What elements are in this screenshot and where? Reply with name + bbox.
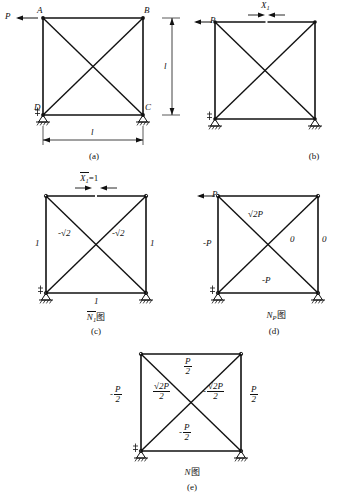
support-hatch-c xyxy=(309,126,321,129)
member-value-diagonal-left: √2P xyxy=(248,210,263,219)
member-value-diagonal-right: -√2 xyxy=(112,229,124,238)
support-pin-c xyxy=(142,293,151,300)
member-value-diagonal-left: -√2 xyxy=(58,229,70,238)
sign-bottom: - xyxy=(179,428,182,437)
panel-caption-a: (a) xyxy=(82,152,106,161)
support-pin-d xyxy=(42,293,51,300)
support-hatch-c xyxy=(140,300,152,303)
joint-label-a: A xyxy=(37,6,43,15)
dim-horizontal-arrow-left xyxy=(43,138,50,143)
support-hatch-d xyxy=(37,122,49,125)
member-value-diagonal-right: - √2P 2 xyxy=(203,382,224,401)
support-pin-c xyxy=(237,451,246,458)
load-label-p: P xyxy=(212,190,218,199)
support-hatch-d xyxy=(40,300,52,303)
load-label-p: P xyxy=(210,16,216,25)
panel-caption-b: (b) xyxy=(302,152,326,161)
panel-title-d: NP图 xyxy=(250,311,302,321)
member-value-right: 0 xyxy=(322,235,327,244)
joint-a xyxy=(41,16,45,20)
panel-title-c: N1图 xyxy=(70,311,122,323)
support-hatch-c xyxy=(312,300,324,303)
panel-b: P X1 (b) xyxy=(190,0,362,170)
panel-caption-e: (e) xyxy=(180,483,204,492)
support-pin-d xyxy=(137,451,146,458)
panel-c: X1=1 1 1 1 -√2 -√2 N1图 (c) xyxy=(0,170,190,345)
member-value-right: P 2 xyxy=(250,385,258,404)
sign-diagonal-right: - xyxy=(203,387,206,396)
panel-title-e: N图 xyxy=(174,468,210,477)
panel-b-graphic xyxy=(190,0,362,170)
support-vertical-mark-d xyxy=(207,112,212,121)
panel-a-graphic xyxy=(0,0,190,170)
dim-vertical-arrow-bottom xyxy=(170,108,175,115)
sign-left: - xyxy=(110,390,113,399)
support-hatch-d xyxy=(135,458,147,461)
load-arrow-head xyxy=(194,19,201,24)
member-value-bottom: -P xyxy=(262,276,271,285)
cut-arrow-left-head xyxy=(258,13,265,18)
support-hatch-c xyxy=(137,122,149,125)
joint-label-c: C xyxy=(145,103,151,112)
joint-label-d: D xyxy=(34,103,41,112)
support-vertical-mark-d xyxy=(38,286,43,295)
panel-caption-c: (c) xyxy=(84,327,108,336)
member-value-diagonal-left: √2P 2 xyxy=(153,382,170,401)
support-hatch-d xyxy=(212,300,224,303)
cut-arrow-right-head xyxy=(100,186,107,191)
cut-arrow-left-head xyxy=(85,186,92,191)
member-value-diagonal-right: 0 xyxy=(290,235,295,244)
member-value-left: 1 xyxy=(35,239,40,248)
member-value-bottom: 1 xyxy=(94,297,99,306)
load-arrow-head xyxy=(16,15,23,20)
dim-vertical-arrow-top xyxy=(170,18,175,25)
joint-b xyxy=(141,16,145,20)
member-value-top: P 2 xyxy=(184,357,192,376)
cut-label-x1: X1 xyxy=(261,1,270,11)
member-value-right: 1 xyxy=(150,239,155,248)
load-arrow-head xyxy=(197,193,204,198)
support-vertical-mark-d xyxy=(133,444,138,453)
member-value-left: - P 2 xyxy=(110,385,122,404)
panel-a: A B C D P l l (a) xyxy=(0,0,190,170)
dim-horizontal-arrow-right xyxy=(136,138,143,143)
panel-e: P 2 - P 2 P 2 - P 2 √2P 2 - √2P 2 N图 (e) xyxy=(86,340,296,503)
member-value-bottom: - P 2 xyxy=(179,423,191,442)
cut-label-x1-unit: X1=1 xyxy=(80,172,98,184)
panel-caption-d: (d) xyxy=(262,327,286,336)
joint-label-b: B xyxy=(144,6,150,15)
support-pin-c xyxy=(314,293,323,300)
load-label-p: P xyxy=(5,12,11,21)
support-pin-d xyxy=(214,293,223,300)
member-value-left: -P xyxy=(203,239,212,248)
dim-label-vertical: l xyxy=(164,62,167,71)
support-hatch-d xyxy=(209,126,221,129)
panel-d: P √2P 0 -P 0 -P NP图 (d) xyxy=(190,170,362,345)
support-vertical-mark-d xyxy=(210,286,215,295)
joint-b xyxy=(313,20,317,24)
dim-label-horizontal: l xyxy=(91,128,94,137)
cut-arrow-right-head xyxy=(268,13,275,18)
support-hatch-c xyxy=(235,458,247,461)
